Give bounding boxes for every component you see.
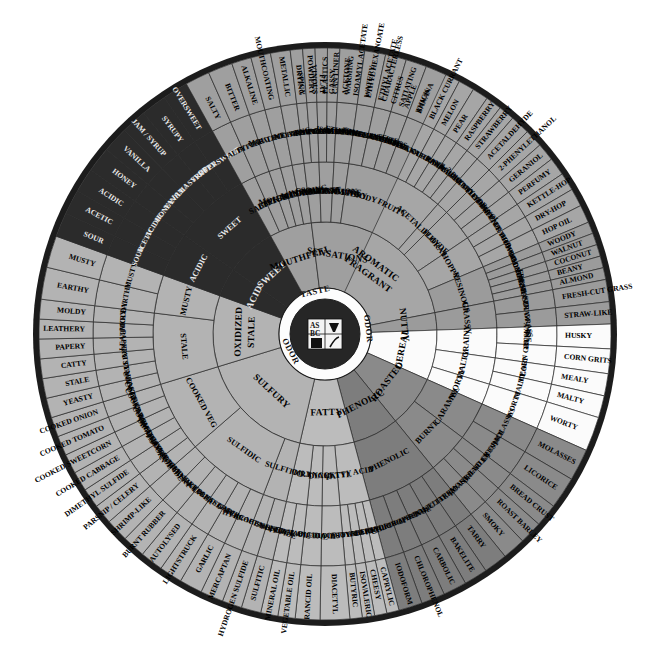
- leaf-label: GASSY: [327, 68, 337, 94]
- leaf-label: PAPERY: [55, 341, 86, 352]
- leaf-label: DIACETYL: [330, 574, 340, 614]
- logo-text-bc: BC: [310, 329, 320, 338]
- flavor-wheel-container: AROMATICFRAGRANTALCOHOLICSPICYSPICYVINOU…: [0, 0, 650, 669]
- leaf-label: HUSKY: [565, 331, 593, 340]
- leaf-label: FLAT: [318, 74, 327, 94]
- hand-icon: [311, 338, 322, 348]
- group-label: OXIDIZED: [233, 307, 244, 357]
- group-label: FATTY: [310, 407, 342, 418]
- group-label: STALE: [246, 316, 257, 348]
- leaf-label: LEATHERY: [43, 324, 85, 334]
- flavor-wheel-svg: AROMATICFRAGRANTALCOHOLICSPICYSPICYVINOU…: [0, 0, 650, 669]
